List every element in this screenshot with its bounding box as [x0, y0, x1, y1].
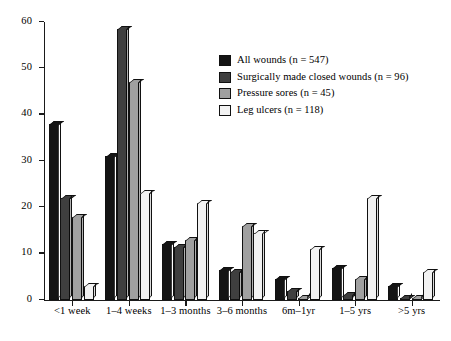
y-tick-label: 60	[21, 15, 32, 26]
y-tick-label: 10	[21, 247, 32, 258]
bar	[174, 247, 184, 300]
x-axis-label: <1 week	[44, 306, 101, 317]
bar	[275, 279, 285, 300]
legend-item: Surgically made closed wounds (n = 96)	[219, 72, 409, 83]
bar	[129, 82, 139, 300]
bar	[105, 156, 115, 300]
y-tick: 0	[39, 299, 44, 300]
y-axis-line	[44, 22, 45, 300]
bar-group	[105, 22, 150, 300]
legend-label: Surgically made closed wounds (n = 96)	[237, 72, 409, 83]
chart-legend: All wounds (n = 547)Surgically made clos…	[219, 55, 409, 116]
x-axis-label: 1–4 weeks	[101, 306, 158, 317]
bar	[60, 198, 70, 300]
legend-label: Pressure sores (n = 45)	[237, 88, 334, 99]
y-tick-label: 30	[21, 154, 32, 165]
x-axis-label: 6m–1yr	[270, 306, 327, 317]
bar	[412, 298, 422, 300]
legend-item: All wounds (n = 547)	[219, 55, 409, 66]
bar	[117, 29, 127, 300]
legend-label: Leg ulcers (n = 118)	[237, 105, 323, 116]
y-tick-label: 50	[21, 62, 32, 73]
bar	[230, 272, 240, 300]
bar-group	[162, 22, 207, 300]
bar	[298, 298, 308, 300]
x-axis-label: 1–3 months	[157, 306, 214, 317]
bar	[355, 279, 365, 300]
y-tick: 30	[39, 160, 44, 161]
bar	[343, 295, 353, 300]
y-tick: 50	[39, 67, 44, 68]
bar	[423, 272, 433, 300]
y-tick-label: 20	[21, 201, 32, 212]
y-tick-label: 40	[21, 108, 32, 119]
bar	[185, 240, 195, 300]
legend-swatch	[219, 88, 231, 99]
bar	[388, 286, 398, 300]
bar	[140, 193, 150, 300]
bar	[253, 233, 263, 300]
legend-item: Pressure sores (n = 45)	[219, 88, 409, 99]
bar	[197, 203, 207, 300]
bar	[310, 249, 320, 300]
bar	[287, 291, 297, 300]
y-tick: 10	[39, 252, 44, 253]
legend-swatch	[219, 105, 231, 116]
legend-label: All wounds (n = 547)	[237, 55, 329, 66]
x-axis-label: >5 yrs	[383, 306, 440, 317]
bar	[367, 198, 377, 300]
bar	[162, 244, 172, 300]
bar-chart: 0102030405060 <1 week1–4 weeks1–3 months…	[0, 0, 451, 341]
x-axis-label: 1–5 yrs	[327, 306, 384, 317]
bar	[219, 270, 229, 300]
y-tick: 20	[39, 206, 44, 207]
legend-swatch	[219, 72, 231, 83]
bar	[84, 286, 94, 300]
bar	[242, 226, 252, 300]
y-tick: 40	[39, 113, 44, 114]
x-axis-label: 3–6 months	[214, 306, 271, 317]
y-tick: 60	[39, 21, 44, 22]
bar-group	[49, 22, 94, 300]
bar	[49, 124, 59, 300]
legend-item: Leg ulcers (n = 118)	[219, 105, 409, 116]
bar	[332, 268, 342, 300]
y-tick-label: 0	[27, 293, 32, 304]
legend-swatch	[219, 55, 231, 66]
bar	[400, 298, 410, 300]
bar	[72, 217, 82, 300]
